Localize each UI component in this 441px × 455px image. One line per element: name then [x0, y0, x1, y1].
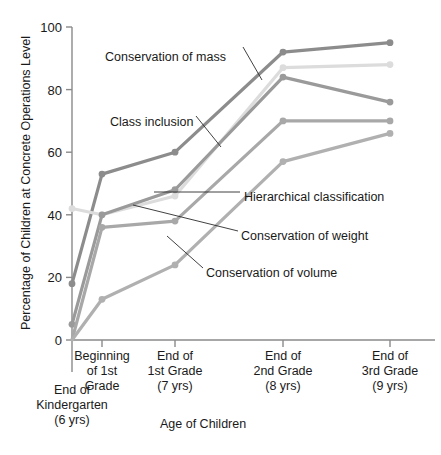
x-axis-category-label-line: (9 yrs): [170, 379, 441, 394]
x-axis-title: Age of Children: [160, 417, 246, 431]
chart-text-layer: Conservation of massClass inclusionHiera…: [0, 0, 441, 455]
x-axis-category-label: End of3rd Grade(9 yrs): [170, 349, 441, 394]
x-axis-category-label-line: End of: [170, 349, 441, 364]
chart-figure: 020406080100 Conservation of massClass i…: [0, 0, 441, 455]
x-axis-category-label-line: 3rd Grade: [170, 364, 441, 379]
series-annotation-label: Conservation of weight: [241, 229, 368, 243]
series-annotation-label: Conservation of mass: [105, 50, 226, 64]
series-annotation-label: Hierarchical classification: [244, 190, 384, 204]
series-annotation-label: Class inclusion: [110, 115, 193, 129]
series-annotation-label: Conservation of volume: [206, 266, 337, 280]
y-axis-title: Percentage of Children at Concrete Opera…: [19, 33, 33, 333]
x-axis-category-label-line: (6 yrs): [0, 413, 293, 428]
x-axis-category-label-line: Kindergarten: [0, 398, 293, 413]
